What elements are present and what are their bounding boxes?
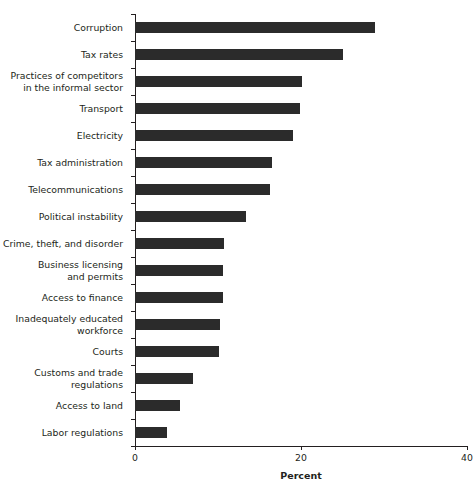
bar	[135, 49, 343, 60]
y-tick	[131, 176, 135, 177]
bar	[135, 427, 167, 438]
x-tick	[467, 446, 468, 450]
y-tick	[131, 149, 135, 150]
y-tick	[131, 41, 135, 42]
y-tick	[131, 392, 135, 393]
x-tick-label: 0	[132, 452, 138, 463]
bar	[135, 373, 193, 384]
category-label: Transport	[0, 95, 128, 122]
category-label: Access to land	[0, 392, 128, 419]
bar	[135, 400, 180, 411]
bar-row	[135, 203, 467, 230]
category-label: Telecommunications	[0, 176, 128, 203]
bar-row	[135, 176, 467, 203]
category-label: Corruption	[0, 14, 128, 41]
category-label: Electricity	[0, 122, 128, 149]
x-tick-label: 40	[461, 452, 473, 463]
bar-row	[135, 95, 467, 122]
bar	[135, 184, 270, 195]
y-tick	[131, 419, 135, 420]
bar-row	[135, 230, 467, 257]
y-tick	[131, 203, 135, 204]
clipped-figure-caption	[0, 0, 476, 4]
y-tick	[131, 284, 135, 285]
category-label: Courts	[0, 338, 128, 365]
bar	[135, 346, 219, 357]
bar	[135, 319, 220, 330]
y-tick	[131, 365, 135, 366]
plot-area	[135, 14, 467, 446]
x-axis-title: Percent	[135, 470, 467, 481]
bar-rows	[135, 14, 467, 446]
bar-row	[135, 257, 467, 284]
bar	[135, 211, 246, 222]
y-tick	[131, 14, 135, 15]
bar-row	[135, 338, 467, 365]
bar-row	[135, 419, 467, 446]
bar-row	[135, 122, 467, 149]
bar	[135, 130, 293, 141]
bar	[135, 265, 223, 276]
bar	[135, 103, 300, 114]
x-tick-label: 20	[295, 452, 307, 463]
bar	[135, 238, 224, 249]
bar-row	[135, 365, 467, 392]
y-tick	[131, 95, 135, 96]
category-label: Inadequately educated workforce	[0, 311, 128, 338]
category-label: Tax administration	[0, 149, 128, 176]
category-label: Customs and trade regulations	[0, 365, 128, 392]
x-tick	[301, 446, 302, 450]
bar-row	[135, 392, 467, 419]
category-axis-labels: CorruptionTax ratesPractices of competit…	[0, 14, 128, 446]
bar-row	[135, 68, 467, 95]
bar-row	[135, 284, 467, 311]
bar-chart: CorruptionTax ratesPractices of competit…	[0, 0, 476, 500]
category-label: Practices of competitors in the informal…	[0, 68, 128, 95]
category-label: Crime, theft, and disorder	[0, 230, 128, 257]
y-tick	[131, 122, 135, 123]
category-label: Business licensing and permits	[0, 257, 128, 284]
y-tick	[131, 338, 135, 339]
y-tick	[131, 230, 135, 231]
bar	[135, 157, 272, 168]
category-label: Labor regulations	[0, 419, 128, 446]
bar-row	[135, 311, 467, 338]
y-tick	[131, 311, 135, 312]
bar	[135, 292, 223, 303]
bar	[135, 76, 302, 87]
bar-row	[135, 14, 467, 41]
category-label: Political instability	[0, 203, 128, 230]
y-tick	[131, 257, 135, 258]
bar-row	[135, 41, 467, 68]
bar-row	[135, 149, 467, 176]
category-label: Tax rates	[0, 41, 128, 68]
x-tick	[135, 446, 136, 450]
category-label: Access to finance	[0, 284, 128, 311]
bar	[135, 22, 375, 33]
y-tick	[131, 68, 135, 69]
